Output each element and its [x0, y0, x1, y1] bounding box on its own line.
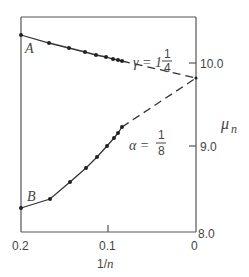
- series-a-points: [19, 33, 198, 80]
- svg-text:α =: α =: [129, 138, 149, 153]
- axis-ticks: [108, 63, 196, 232]
- svg-text:γ = 1: γ = 1: [133, 55, 162, 70]
- series-a: A: [19, 33, 198, 80]
- svg-text:1: 1: [164, 47, 171, 61]
- y-tick-8: 8.0: [198, 227, 215, 241]
- chart: 0.2 0.1 0 10.0 9.0 8.0 1/n μ n A γ = 1 1…: [0, 0, 249, 277]
- svg-text:4: 4: [164, 61, 171, 75]
- gamma-annotation: γ = 1 1 4: [133, 47, 172, 75]
- svg-text:μ: μ: [220, 115, 229, 133]
- series-b: B: [19, 78, 196, 210]
- y-axis-label: μ n: [220, 115, 237, 136]
- x-tick-0.2: 0.2: [12, 239, 29, 253]
- svg-text:1: 1: [158, 128, 165, 142]
- svg-text:1/n: 1/n: [97, 256, 114, 271]
- label-b: B: [27, 189, 36, 204]
- label-a: A: [24, 41, 34, 56]
- y-tick-10: 10.0: [200, 57, 224, 71]
- series-b-extrapolation: [122, 78, 196, 127]
- x-tick-0: 0: [191, 239, 198, 253]
- svg-text:8: 8: [158, 144, 165, 158]
- x-axis-label: 1/n: [97, 256, 114, 271]
- x-tick-0.1: 0.1: [99, 239, 116, 253]
- alpha-annotation: α = 1 8: [129, 128, 166, 158]
- svg-text:n: n: [231, 122, 237, 136]
- y-tick-9: 9.0: [200, 140, 217, 154]
